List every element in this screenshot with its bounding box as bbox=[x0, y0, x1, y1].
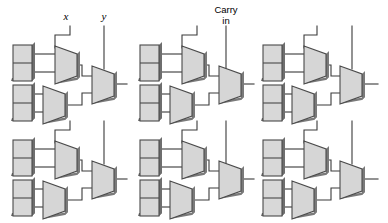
register-box-upper bbox=[138, 42, 162, 81]
wire-mux-lower-to-output bbox=[314, 93, 342, 105]
wire-mux-lower-to-output bbox=[65, 188, 94, 200]
label-carry-in-line1: Carry bbox=[214, 4, 237, 15]
mux-upper bbox=[55, 46, 80, 84]
mux-lower bbox=[43, 86, 68, 124]
register-box-upper bbox=[11, 42, 35, 81]
wire-x-control bbox=[182, 121, 197, 143]
register-box-upper bbox=[261, 137, 285, 176]
register-box-upper bbox=[261, 42, 285, 81]
wire-x-control bbox=[55, 121, 70, 143]
mux-output bbox=[340, 161, 365, 199]
mux-upper bbox=[182, 46, 207, 84]
label-x: x bbox=[63, 10, 69, 22]
register-box-lower bbox=[261, 82, 285, 121]
wire-x-control bbox=[304, 26, 317, 48]
wire-mux-lower-to-output bbox=[192, 93, 221, 105]
cells-layer bbox=[11, 26, 378, 219]
mux-lower bbox=[170, 181, 195, 219]
register-box-lower bbox=[138, 82, 162, 121]
register-box-lower bbox=[261, 177, 285, 216]
wire-x-control bbox=[182, 26, 197, 48]
mux-upper bbox=[304, 141, 329, 179]
logic-cell-r1c1 bbox=[11, 26, 127, 124]
logic-cell-r2c1 bbox=[11, 121, 127, 219]
label-carry-in-line2: in bbox=[222, 15, 229, 26]
logic-cell-r2c3 bbox=[261, 121, 378, 219]
mux-output bbox=[92, 161, 117, 199]
mux-lower bbox=[292, 86, 317, 124]
mux-lower bbox=[43, 181, 68, 219]
mux-output bbox=[340, 66, 365, 104]
mux-output bbox=[219, 66, 244, 104]
wire-x-control bbox=[55, 26, 70, 48]
mux-upper bbox=[55, 141, 80, 179]
wire-mux-lower-to-output bbox=[192, 188, 221, 200]
wire-mux-lower-to-output bbox=[314, 188, 342, 200]
mux-lower bbox=[292, 181, 317, 219]
wire-x-control bbox=[304, 121, 317, 143]
register-box-upper bbox=[138, 137, 162, 176]
figure-canvas: x y Carry in bbox=[0, 0, 388, 223]
circuit-diagram: x y Carry in bbox=[0, 0, 388, 223]
mux-upper bbox=[304, 46, 329, 84]
mux-upper bbox=[182, 141, 207, 179]
labels-layer: x y Carry in bbox=[63, 4, 238, 26]
register-box-upper bbox=[11, 137, 35, 176]
logic-cell-r1c3 bbox=[261, 26, 378, 124]
mux-output bbox=[219, 161, 244, 199]
mux-lower bbox=[170, 86, 195, 124]
register-box-lower bbox=[11, 82, 35, 121]
register-box-lower bbox=[138, 177, 162, 216]
label-y: y bbox=[101, 10, 107, 22]
wire-mux-lower-to-output bbox=[65, 93, 94, 105]
logic-cell-r2c2 bbox=[138, 121, 254, 219]
logic-cell-r1c2 bbox=[138, 26, 254, 124]
mux-output bbox=[92, 66, 117, 104]
register-box-lower bbox=[11, 177, 35, 216]
